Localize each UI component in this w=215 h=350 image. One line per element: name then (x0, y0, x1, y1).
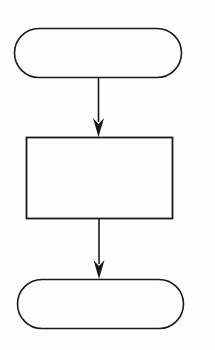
process-label (26, 137, 172, 219)
start-label (14, 28, 181, 77)
arrow-start-to-process (93, 78, 104, 138)
flowchart-canvas (0, 0, 215, 350)
end-label (17, 279, 183, 328)
arrow-process-to-end (94, 219, 105, 280)
